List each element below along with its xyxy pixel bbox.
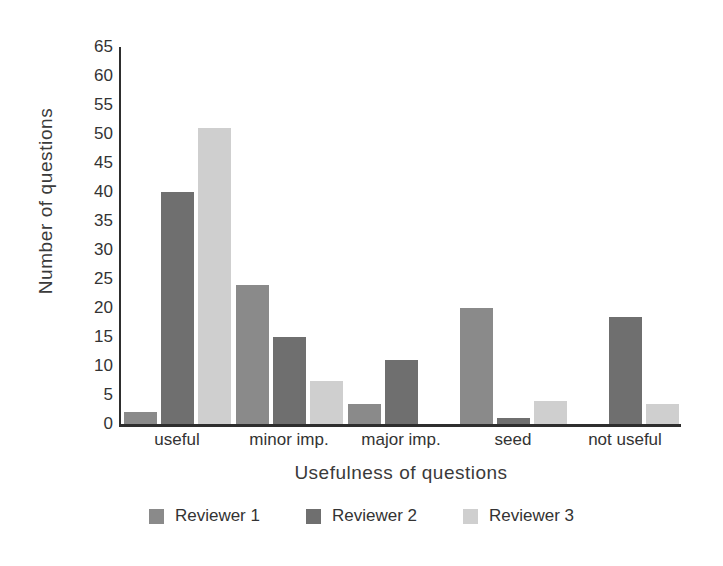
legend-swatch-icon bbox=[149, 509, 164, 524]
bar[interactable] bbox=[534, 401, 567, 424]
x-axis-tick-label: minor imp. bbox=[233, 430, 345, 450]
legend-swatch-icon bbox=[306, 509, 321, 524]
y-axis-tick-label: 60 bbox=[55, 67, 113, 84]
y-axis-tick-label: 5 bbox=[55, 386, 113, 403]
x-axis-tick-label: seed bbox=[457, 430, 569, 450]
legend-item[interactable]: Reviewer 3 bbox=[463, 506, 574, 526]
legend-label: Reviewer 1 bbox=[175, 506, 260, 526]
x-axis-tick-label: not useful bbox=[569, 430, 681, 450]
bar[interactable] bbox=[460, 308, 493, 424]
y-axis-tick-label: 10 bbox=[55, 357, 113, 374]
x-axis-title: Usefulness of questions bbox=[121, 462, 681, 484]
y-axis-line bbox=[119, 47, 121, 426]
legend-item[interactable]: Reviewer 2 bbox=[306, 506, 417, 526]
y-axis-tick-label: 35 bbox=[55, 212, 113, 229]
bar[interactable] bbox=[609, 317, 642, 424]
y-axis-tick-label: 30 bbox=[55, 241, 113, 258]
legend-label: Reviewer 3 bbox=[489, 506, 574, 526]
y-axis-tick-label: 55 bbox=[55, 96, 113, 113]
y-axis-tick-label: 20 bbox=[55, 299, 113, 316]
bar[interactable] bbox=[198, 128, 231, 424]
bar-group bbox=[572, 47, 679, 424]
bar[interactable] bbox=[124, 412, 157, 424]
bar[interactable] bbox=[497, 418, 530, 424]
y-axis-tick-label: 25 bbox=[55, 270, 113, 287]
x-axis-tick-labels: usefulminor imp.major imp.seednot useful bbox=[121, 430, 681, 456]
bar-chart: Number of questions 05101520253035404550… bbox=[0, 0, 723, 566]
bar[interactable] bbox=[236, 285, 269, 424]
plot-area bbox=[121, 47, 681, 424]
y-axis-tick-label: 65 bbox=[55, 38, 113, 55]
bar[interactable] bbox=[161, 192, 194, 424]
bar-group bbox=[460, 47, 567, 424]
bar[interactable] bbox=[646, 404, 679, 424]
y-axis-tick-label: 45 bbox=[55, 154, 113, 171]
bar[interactable] bbox=[273, 337, 306, 424]
y-axis-tick-label: 0 bbox=[55, 415, 113, 432]
bar[interactable] bbox=[310, 381, 343, 425]
y-axis-title: Number of questions bbox=[35, 71, 57, 331]
y-axis-tick-label: 40 bbox=[55, 183, 113, 200]
x-axis-tick-label: useful bbox=[121, 430, 233, 450]
bar-group bbox=[348, 47, 455, 424]
x-axis-line bbox=[119, 424, 681, 427]
chart-legend: Reviewer 1Reviewer 2Reviewer 3 bbox=[0, 506, 723, 526]
legend-item[interactable]: Reviewer 1 bbox=[149, 506, 260, 526]
y-axis-tick-labels: 05101520253035404550556065 bbox=[55, 47, 113, 424]
x-axis-tick-label: major imp. bbox=[345, 430, 457, 450]
bar-group bbox=[236, 47, 343, 424]
bar[interactable] bbox=[348, 404, 381, 424]
legend-label: Reviewer 2 bbox=[332, 506, 417, 526]
bar[interactable] bbox=[385, 360, 418, 424]
bar-group bbox=[124, 47, 231, 424]
legend-swatch-icon bbox=[463, 509, 478, 524]
y-axis-tick-label: 50 bbox=[55, 125, 113, 142]
y-axis-tick-label: 15 bbox=[55, 328, 113, 345]
